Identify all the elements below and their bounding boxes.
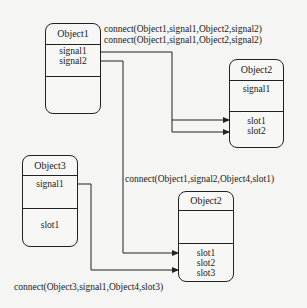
object2-top-signals: signal1 [230,84,283,94]
wire-object1-signal2 [101,61,178,253]
object2-top-signal1: signal1 [230,84,283,94]
diagram-canvas: Object1 signal1 signal2 Object2 signal1 … [0,0,307,308]
object3-slots: slot1 [23,220,77,230]
object2-bottom-title: Object2 [179,192,233,211]
object1-divider [46,76,100,77]
object1-signal2: signal2 [46,56,100,66]
object2-bottom-slot2: slot2 [179,258,233,268]
object3-box: Object3 signal1 slot1 [22,155,78,247]
object3-title: Object3 [23,156,77,176]
object2-top-slot2: slot2 [230,126,283,136]
object2-top-divider [230,111,283,112]
object2-top-box: Object2 signal1 slot1 slot2 [229,59,284,148]
connection-label-3: connect(Object1,signal2,Object4,slot1) [125,175,274,185]
object2-bottom-slots: slot1 slot2 slot3 [179,248,233,278]
object2-top-title: Object2 [230,60,283,81]
object2-top-slot1: slot1 [230,116,283,126]
object3-signal1: signal1 [23,179,77,189]
object2-bottom-slot1: slot1 [179,248,233,258]
object1-box: Object1 signal1 signal2 [45,23,101,114]
object3-slot1: slot1 [23,220,77,230]
connection-label-4: connect(Object3,signal1,Object4,slot3) [14,283,163,293]
object2-bottom-divider [179,243,233,244]
object2-top-slots: slot1 slot2 [230,116,283,136]
object3-signals: signal1 [23,179,77,189]
object2-bottom-box: Object2 slot1 slot2 slot3 [178,191,234,282]
object1-signal1: signal1 [46,46,100,56]
wire-object1-signal1 [101,52,229,120]
wire-object1-signal1-b [172,120,229,132]
object1-title: Object1 [46,24,100,45]
object2-bottom-slot3: slot3 [179,268,233,278]
connection-label-2: connect(Object1,signal1,Object2,signal2) [104,36,262,46]
object1-signals: signal1 signal2 [46,46,100,66]
connection-label-1: connect(Object1,signal1,Object2,signal2) [104,25,262,35]
object3-divider [23,208,77,209]
wire-object3-signal1 [78,184,178,270]
